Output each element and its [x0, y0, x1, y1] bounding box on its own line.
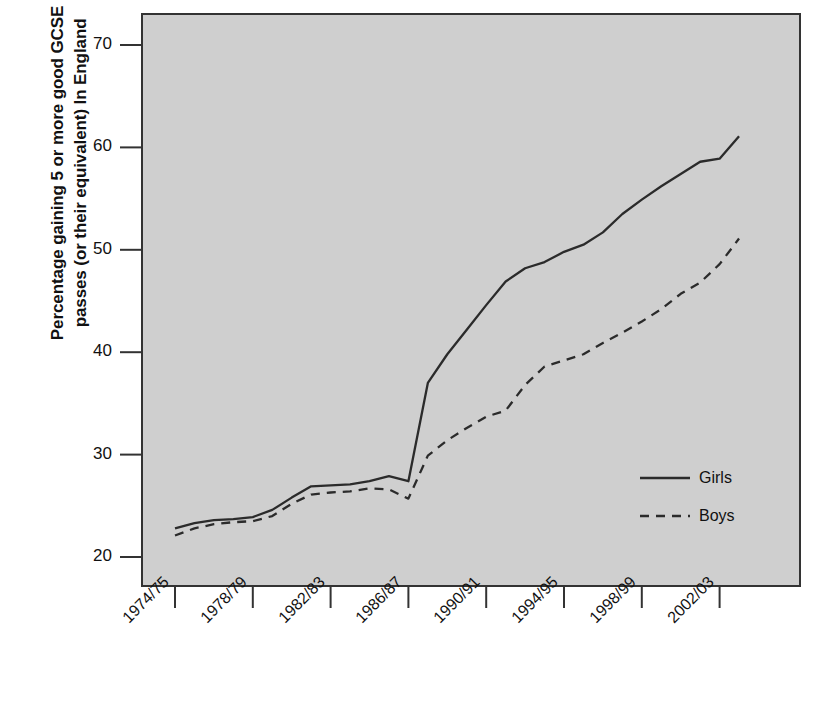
plot-background [142, 14, 800, 586]
y-axis-title-line-2: passes (or their equivalent) In England [70, 0, 93, 393]
y-axis-title: Percentage gaining 5 or more good GCSE p… [47, 0, 93, 393]
y-axis-title-line-1: Percentage gaining 5 or more good GCSE [47, 0, 70, 393]
y-axis-ticks [120, 45, 142, 557]
y-tick-label-40: 40 [66, 341, 112, 361]
legend-label-boys: Boys [699, 507, 735, 525]
gcse-attainment-line-chart: Percentage gaining 5 or more good GCSE p… [0, 0, 817, 706]
legend-label-girls: Girls [699, 469, 732, 487]
y-tick-label-20: 20 [66, 546, 112, 566]
y-tick-label-70: 70 [66, 34, 112, 54]
y-tick-label-30: 30 [66, 444, 112, 464]
y-tick-label-50: 50 [66, 239, 112, 259]
y-tick-label-60: 60 [66, 136, 112, 156]
